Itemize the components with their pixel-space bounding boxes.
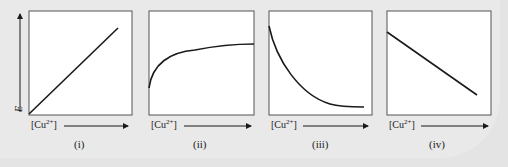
panel-iii: [Cu2+] (iii): [269, 11, 372, 151]
graph-figure: E [Cu2+] (i) [Cu2+] (ii) [Cu2+] (iii) [C…: [0, 0, 508, 167]
caption-iii: (iii): [312, 138, 329, 151]
x-axis-label-i: [Cu2+]: [31, 118, 57, 130]
y-axis: E: [13, 14, 24, 113]
caption-iv: (iv): [429, 138, 445, 151]
x-axis-label-iv: [Cu2+]: [389, 118, 415, 130]
caption-i: (i): [74, 138, 85, 151]
x-axis-label-ii: [Cu2+]: [151, 118, 177, 130]
y-axis-label: E: [13, 106, 24, 113]
panel-iv: [Cu2+] (iv): [387, 11, 491, 151]
panel-ii: [Cu2+] (ii): [149, 11, 254, 151]
caption-ii: (ii): [193, 138, 207, 151]
x-axis-label-iii: [Cu2+]: [271, 118, 297, 130]
panel-i: [Cu2+] (i): [29, 11, 132, 151]
